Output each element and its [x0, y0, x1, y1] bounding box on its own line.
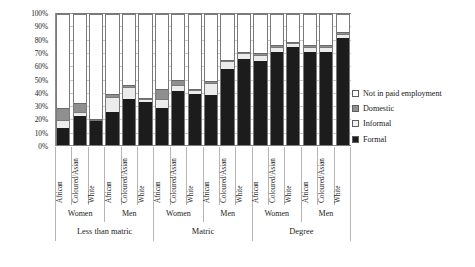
education-group-label: Less than matric — [55, 222, 153, 241]
x-axis-tick-label: African — [56, 181, 64, 203]
bar-slot — [269, 13, 285, 146]
bar-slot — [154, 13, 170, 146]
legend-label: Domestic — [363, 104, 394, 113]
bar-segment-not-in-paid-employment — [139, 14, 151, 98]
bar-segment-informal — [57, 120, 69, 128]
stacked-bar[interactable] — [204, 13, 218, 146]
bar-segment-formal — [205, 95, 217, 145]
bar-segment-not-in-paid-employment — [74, 14, 86, 103]
x-axis-tick: Coloured/Asian — [317, 147, 333, 205]
stacked-bar[interactable] — [270, 13, 284, 146]
stacked-bar[interactable] — [89, 13, 103, 146]
x-axis-gender-band: WomenMenWomenMenWomenMen — [55, 205, 351, 222]
x-axis-tick: Coloured/Asian — [121, 147, 137, 205]
bar-segment-not-in-paid-employment — [337, 14, 349, 32]
stacked-bar[interactable] — [237, 13, 251, 146]
x-axis-tick-label: Coloured/Asian — [72, 158, 80, 203]
y-axis: 100%90%80%70%60%50%40%30%20%10%0% — [8, 0, 48, 267]
x-axis-education-band: Less than matricMatricDegree — [55, 222, 351, 241]
gender-group-label: Women — [153, 205, 202, 222]
bar-slot — [334, 13, 350, 146]
x-axis-tick: White — [88, 147, 104, 205]
bar-segment-formal — [156, 108, 168, 145]
bar-segment-not-in-paid-employment — [320, 14, 332, 45]
bar-segment-formal — [57, 128, 69, 145]
bar-segment-formal — [106, 112, 118, 145]
stacked-bar[interactable] — [319, 13, 333, 146]
stacked-bar[interactable] — [220, 13, 234, 146]
stacked-bar[interactable] — [73, 13, 87, 146]
legend-label: Not in paid employment — [363, 89, 442, 98]
bar-series-container — [55, 13, 351, 146]
stacked-bar[interactable] — [171, 13, 185, 146]
stacked-bar[interactable] — [105, 13, 119, 146]
legend-item[interactable]: Informal — [352, 119, 474, 129]
x-axis-tick: African — [203, 147, 219, 205]
y-axis-tick-label: 60% — [35, 62, 48, 71]
stacked-bar[interactable] — [56, 13, 70, 146]
legend-item[interactable]: Not in paid employment — [352, 88, 474, 98]
stacked-bar[interactable] — [188, 13, 202, 146]
bar-slot — [88, 13, 104, 146]
x-axis-tick-label: White — [236, 186, 244, 203]
y-axis-tick-label: 50% — [35, 75, 48, 84]
bar-segment-domestic — [156, 89, 168, 99]
education-group-label: Degree — [252, 222, 351, 241]
bar-slot — [219, 13, 235, 146]
bar-segment-formal — [254, 61, 266, 145]
bar-slot — [104, 13, 120, 146]
stacked-bar[interactable] — [138, 13, 152, 146]
bar-segment-domestic — [74, 103, 86, 112]
x-axis-tick: Coloured/Asian — [268, 147, 284, 205]
stacked-bar[interactable] — [253, 13, 267, 146]
bar-segment-formal — [90, 121, 102, 145]
bar-segment-formal — [304, 52, 316, 145]
legend-item[interactable]: Formal — [352, 134, 474, 144]
bar-segment-not-in-paid-employment — [287, 14, 299, 42]
x-axis-tick-label: African — [105, 181, 113, 203]
bar-segment-domestic — [57, 108, 69, 120]
y-axis-tick-label: 20% — [35, 115, 48, 124]
bar-slot — [137, 13, 153, 146]
x-axis-category-labels: AfricanColoured/AsianWhiteAfricanColoure… — [55, 147, 351, 205]
stacked-bar[interactable] — [336, 13, 350, 146]
x-axis-tick: African — [153, 147, 169, 205]
bar-segment-formal — [139, 102, 151, 145]
bar-slot — [55, 13, 71, 146]
chart-root: 100%90%80%70%60%50%40%30%20%10%0% Africa… — [0, 0, 475, 267]
bar-segment-not-in-paid-employment — [90, 14, 102, 119]
stacked-bar-chart: 100%90%80%70%60%50%40%30%20%10%0% Africa… — [0, 0, 475, 267]
gender-group-label: Men — [301, 205, 351, 222]
x-axis-tick: African — [301, 147, 317, 205]
x-axis-tick: White — [186, 147, 202, 205]
stacked-bar[interactable] — [286, 13, 300, 146]
bar-segment-formal — [123, 99, 135, 145]
x-axis-tick-label: Coloured/Asian — [121, 158, 129, 203]
x-axis-tick: White — [284, 147, 300, 205]
x-axis-tick: White — [235, 147, 251, 205]
bar-segment-informal — [205, 83, 217, 95]
stacked-bar[interactable] — [122, 13, 136, 146]
bar-segment-not-in-paid-employment — [106, 14, 118, 94]
bar-slot — [71, 13, 87, 146]
x-axis-tick: Coloured/Asian — [71, 147, 87, 205]
x-axis-tick: White — [137, 147, 153, 205]
legend-swatch-informal — [352, 120, 359, 127]
bar-slot — [170, 13, 186, 146]
legend-item[interactable]: Domestic — [352, 103, 474, 113]
y-axis-tick-label: 90% — [35, 22, 48, 31]
x-axis-tick: African — [104, 147, 120, 205]
stacked-bar[interactable] — [155, 13, 169, 146]
legend-swatch-domestic — [352, 105, 359, 112]
gender-group-label: Women — [55, 205, 104, 222]
x-axis-tick-label: African — [154, 181, 162, 203]
x-axis-tick-label: Coloured/Asian — [170, 158, 178, 203]
chart-legend: Not in paid employmentDomesticInformalFo… — [352, 88, 474, 150]
bar-segment-not-in-paid-employment — [189, 14, 201, 89]
x-axis-tick-label: Coloured/Asian — [318, 158, 326, 203]
bar-segment-informal — [221, 61, 233, 69]
x-axis-tick-label: White — [187, 186, 195, 203]
bar-segment-informal — [123, 87, 135, 99]
stacked-bar[interactable] — [303, 13, 317, 146]
gender-group-label: Men — [104, 205, 153, 222]
